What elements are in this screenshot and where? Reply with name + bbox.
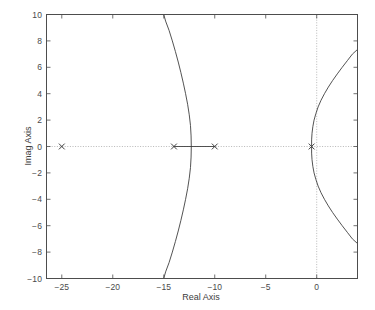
plot-canvas bbox=[0, 0, 375, 310]
y-axis-tick-label: 4 bbox=[22, 89, 42, 99]
root-locus-figure: −25−20−15−10−501086420−2−4−6−8−10Real Ax… bbox=[0, 0, 375, 310]
y-axis-tick-label: 2 bbox=[22, 115, 42, 125]
y-axis-tick-label: 6 bbox=[22, 62, 42, 72]
x-axis-tick-label: −25 bbox=[54, 282, 69, 292]
y-axis-tick-label: −2 bbox=[22, 168, 42, 178]
x-axis-tick-label: −10 bbox=[207, 282, 222, 292]
y-axis-tick-label: −6 bbox=[22, 221, 42, 231]
x-axis-tick-label: 0 bbox=[314, 282, 319, 292]
x-axis-tick-label: −15 bbox=[156, 282, 171, 292]
y-axis-tick-label: 8 bbox=[22, 36, 42, 46]
y-axis-tick-label: −4 bbox=[22, 194, 42, 204]
y-axis-label: Imag Axis bbox=[23, 126, 33, 165]
y-axis-tick-label: −8 bbox=[22, 247, 42, 257]
x-axis-tick-label: −20 bbox=[105, 282, 120, 292]
y-axis-tick-label: −10 bbox=[22, 274, 42, 284]
x-axis-label: Real Axis bbox=[182, 292, 220, 302]
y-axis-tick-label: 10 bbox=[22, 10, 42, 20]
x-axis-tick-label: −5 bbox=[261, 282, 271, 292]
